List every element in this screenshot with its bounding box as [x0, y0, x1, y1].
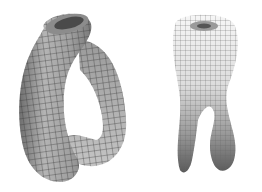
klein-bottle-front-view [140, 0, 262, 192]
klein-bottle-side-view [0, 0, 140, 192]
